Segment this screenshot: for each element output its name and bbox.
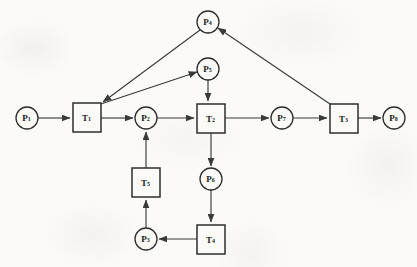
place-p2[interactable]: P2 — [135, 107, 157, 129]
transition-t5[interactable]: T5 — [132, 168, 160, 197]
place-p6[interactable]: P6 — [200, 168, 222, 190]
place-p3[interactable]: P3 — [135, 228, 157, 250]
transition-t1[interactable]: T1 — [73, 103, 101, 132]
petri-net-canvas: P1P2P3P4P5P6P7P8T1T2T3T4T5 — [0, 0, 417, 267]
place-p5[interactable]: P5 — [197, 58, 219, 80]
place-p4[interactable]: P4 — [197, 11, 219, 33]
transition-t3[interactable]: T3 — [330, 104, 358, 133]
place-p7[interactable]: P7 — [271, 107, 293, 129]
place-p8[interactable]: P8 — [383, 107, 405, 129]
place-p1[interactable]: P1 — [16, 107, 38, 129]
petri-net-diagram: P1P2P3P4P5P6P7P8T1T2T3T4T5 — [0, 0, 417, 267]
arc-t1-to-p5 — [101, 72, 197, 104]
arc-p4-to-t1 — [103, 30, 200, 102]
transition-t4[interactable]: T4 — [197, 225, 225, 254]
arc-t3-to-p4 — [218, 28, 330, 104]
transition-t2[interactable]: T2 — [197, 104, 225, 133]
